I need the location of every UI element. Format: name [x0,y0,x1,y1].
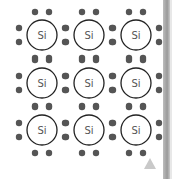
si-atom: Si [16,9,68,61]
valence-electron-dot [63,134,69,140]
valence-electron-dot [93,150,99,156]
valence-electron-dot [93,9,99,15]
valence-electron-dot [46,9,52,15]
valence-electron-dot [156,87,162,93]
valence-electron-dot [32,104,38,110]
valence-electron-dot [156,25,162,31]
valence-electron-dot [79,9,85,15]
valence-electron-dot [16,25,22,31]
valence-electron-dot [126,57,132,63]
silicon-lattice-diagram: SiSiSiSiSiSiSiSiSi [0,0,172,179]
atom-label: Si [131,125,140,136]
valence-electron-dot [93,57,99,63]
si-atom: Si [63,57,115,109]
valence-electron-dot [110,120,116,126]
valence-electron-dot [63,39,69,45]
page-edge-highlight [170,0,172,179]
valence-electron-dot [110,73,116,79]
valence-electron-dot [140,150,146,156]
valence-electron-dot [46,57,52,63]
valence-electron-dot [63,73,69,79]
valence-electron-dot [63,25,69,31]
atom-label: Si [131,78,140,89]
valence-electron-dot [16,39,22,45]
triangle-up-icon [144,158,156,169]
valence-electron-dot [110,87,116,93]
valence-electron-dot [93,104,99,110]
valence-electron-dot [79,150,85,156]
valence-electron-dot [156,73,162,79]
valence-electron-dot [46,150,52,156]
valence-electron-dot [16,120,22,126]
atom-label: Si [37,125,46,136]
atom-label: Si [131,30,140,41]
valence-electron-dot [156,120,162,126]
valence-electron-dot [32,150,38,156]
atom-label: Si [37,78,46,89]
valence-electron-dot [156,134,162,140]
valence-electron-dot [16,87,22,93]
atom-label: Si [84,78,93,89]
valence-electron-dot [126,9,132,15]
valence-electron-dot [79,57,85,63]
valence-electron-dot [110,25,116,31]
valence-electron-dot [63,120,69,126]
valence-electron-dot [140,57,146,63]
valence-electron-dot [126,104,132,110]
si-atom: Si [110,9,162,61]
si-atom: Si [16,104,68,156]
valence-electron-dot [32,9,38,15]
valence-electron-dot [63,87,69,93]
valence-electron-dot [110,39,116,45]
si-atom: Si [110,104,162,156]
si-atom: Si [110,57,162,109]
valence-electron-dot [140,9,146,15]
valence-electron-dot [79,104,85,110]
valence-electron-dot [110,134,116,140]
valence-electron-dot [46,104,52,110]
valence-electron-dot [140,104,146,110]
atom-label: Si [84,30,93,41]
si-atom: Si [16,57,68,109]
valence-electron-dot [16,134,22,140]
atom-label: Si [84,125,93,136]
si-atom: Si [63,104,115,156]
valence-electron-dot [16,73,22,79]
page-edge-bar [163,0,170,179]
valence-electron-dot [126,150,132,156]
atom-label: Si [37,30,46,41]
valence-electron-dot [156,39,162,45]
si-atom: Si [63,9,115,61]
valence-electron-dot [32,57,38,63]
